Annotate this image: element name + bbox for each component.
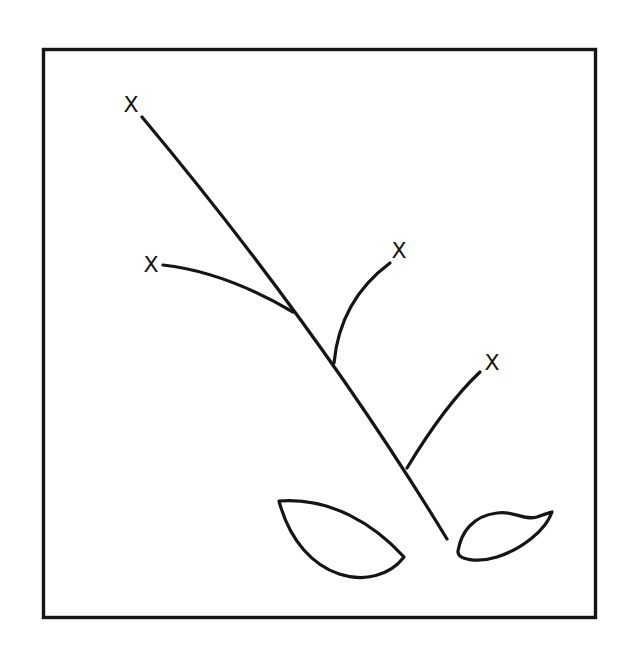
figure-page: XXXX	[0, 0, 631, 660]
plant-diagram-svg: XXXX	[0, 0, 631, 660]
diagram-content: XXXX	[44, 50, 596, 618]
tip-mark-1: X	[123, 92, 138, 117]
tip-mark-2: X	[143, 252, 158, 277]
frame-border	[44, 50, 596, 618]
tip-mark-4: X	[484, 350, 499, 375]
tip-mark-3: X	[391, 238, 406, 263]
